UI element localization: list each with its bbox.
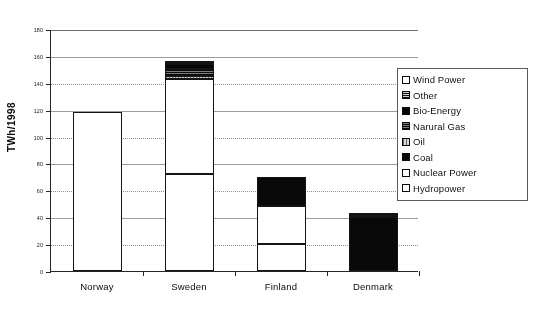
bar-segment-wind[interactable] xyxy=(349,213,398,215)
legend-swatch-icon xyxy=(402,138,410,146)
bar-segment-oil[interactable] xyxy=(165,76,214,79)
y-axis-tick-label: 40 xyxy=(37,215,43,221)
bar-segment-nuclear[interactable] xyxy=(165,79,214,174)
y-axis-tick xyxy=(46,218,51,219)
bar-sweden[interactable] xyxy=(165,61,214,271)
legend-swatch-icon xyxy=(402,76,410,84)
legend-item[interactable]: Bio-Energy xyxy=(402,103,523,119)
y-axis-tick xyxy=(46,164,51,165)
legend-item-label: Oil xyxy=(413,136,425,147)
bar-segment-coal[interactable] xyxy=(349,217,398,271)
legend-item[interactable]: Oil xyxy=(402,134,523,150)
bar-segment-gas[interactable] xyxy=(165,69,214,76)
legend-swatch-icon xyxy=(402,153,410,161)
y-axis-tick-label: 80 xyxy=(37,161,43,167)
legend-item[interactable]: Wind Power xyxy=(402,72,523,88)
legend-swatch-icon xyxy=(402,122,410,130)
y-axis-tick-label: 0 xyxy=(40,269,43,275)
legend-item[interactable]: Other xyxy=(402,88,523,104)
y-axis-tick-label: 180 xyxy=(34,27,43,33)
legend-item[interactable]: Nuclear Power xyxy=(402,165,523,181)
legend-item-label: Bio-Energy xyxy=(413,105,461,116)
chart-canvas: TWh/1998 020406080100120140160180NorwayS… xyxy=(0,0,535,316)
y-axis-tick xyxy=(46,57,51,58)
y-axis-tick-label: 60 xyxy=(37,188,43,194)
legend-item-label: Narural Gas xyxy=(413,121,465,132)
legend-swatch-icon xyxy=(402,91,410,99)
plot-area: 020406080100120140160180NorwaySwedenFinl… xyxy=(50,30,418,272)
bar-finland[interactable] xyxy=(257,177,306,271)
chart-legend: Wind PowerOtherBio-EnergyNarural GasOilC… xyxy=(397,68,528,201)
y-axis-tick-label: 160 xyxy=(34,54,43,60)
bar-segment-hydro[interactable] xyxy=(165,174,214,271)
legend-swatch-icon xyxy=(402,184,410,192)
x-axis-label-finland: Finland xyxy=(265,281,298,292)
gridline xyxy=(51,84,418,85)
legend-item[interactable]: Coal xyxy=(402,150,523,166)
y-axis-tick-label: 120 xyxy=(34,108,43,114)
bar-norway[interactable] xyxy=(73,112,122,271)
bar-segment-nuclear[interactable] xyxy=(257,206,306,244)
y-axis-title: TWh/1998 xyxy=(6,102,17,152)
y-axis-tick xyxy=(46,191,51,192)
legend-item[interactable]: Hydropower xyxy=(402,181,523,197)
x-axis-tick xyxy=(143,271,144,276)
legend-item[interactable]: Narural Gas xyxy=(402,119,523,135)
y-axis-tick xyxy=(46,138,51,139)
legend-item-label: Wind Power xyxy=(413,74,465,85)
legend-swatch-icon xyxy=(402,169,410,177)
bar-segment-other[interactable] xyxy=(165,61,214,64)
legend-item-label: Other xyxy=(413,90,437,101)
bar-segment-bio[interactable] xyxy=(165,64,214,69)
y-axis-tick xyxy=(46,84,51,85)
legend-item-label: Nuclear Power xyxy=(413,167,477,178)
bar-segment-hydro[interactable] xyxy=(73,112,122,271)
bar-segment-hydro[interactable] xyxy=(257,244,306,271)
legend-swatch-icon xyxy=(402,107,410,115)
legend-item-label: Coal xyxy=(413,152,433,163)
gridline xyxy=(51,30,418,31)
y-axis-tick xyxy=(46,245,51,246)
gridline xyxy=(51,57,418,58)
x-axis-label-sweden: Sweden xyxy=(171,281,207,292)
bar-denmark[interactable] xyxy=(349,213,398,271)
x-axis-label-denmark: Denmark xyxy=(353,281,393,292)
x-axis-tick xyxy=(419,271,420,276)
x-axis-tick xyxy=(235,271,236,276)
x-axis-tick xyxy=(327,271,328,276)
x-axis-label-norway: Norway xyxy=(80,281,113,292)
y-axis-tick xyxy=(46,272,51,273)
y-axis-tick xyxy=(46,30,51,31)
y-axis-tick xyxy=(46,111,51,112)
y-axis-tick-label: 20 xyxy=(37,242,43,248)
y-axis-tick-label: 100 xyxy=(34,135,43,141)
bar-segment-coal[interactable] xyxy=(257,177,306,207)
legend-item-label: Hydropower xyxy=(413,183,465,194)
y-axis-tick-label: 140 xyxy=(34,81,43,87)
